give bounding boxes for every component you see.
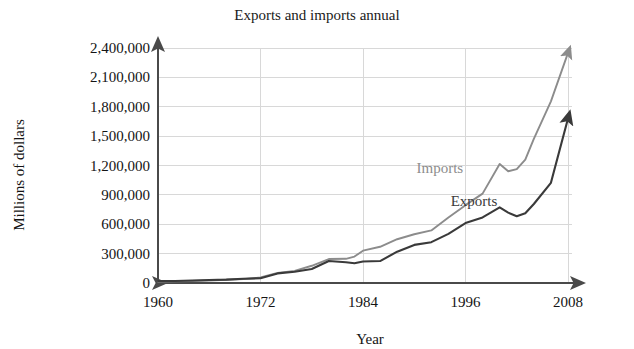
y-tick-label: 2,100,000 (90, 69, 150, 85)
x-tick-label: 1984 (348, 294, 379, 310)
y-tick-label: 300,000 (101, 246, 150, 262)
y-tick-label: 0 (143, 275, 151, 291)
series-annotation-labels: ImportsExports (417, 160, 498, 208)
series-label-exports: Exports (451, 193, 498, 209)
x-axis-tick-labels: 19601972198419962008 (143, 294, 583, 310)
y-tick-label: 1,200,000 (90, 158, 150, 174)
y-tick-label: 2,400,000 (90, 40, 150, 56)
y-axis-title: Millions of dollars (11, 119, 27, 231)
x-tick-label: 1972 (246, 294, 276, 310)
exports-imports-line-chart: Exports and imports annual Millions of d… (0, 0, 634, 349)
series-label-imports: Imports (417, 160, 464, 176)
y-tick-label: 900,000 (101, 187, 150, 203)
y-tick-label: 600,000 (101, 216, 150, 232)
chart-title: Exports and imports annual (234, 7, 399, 23)
x-tick-label: 1996 (451, 294, 482, 310)
x-axis-title: Year (356, 331, 384, 347)
y-axis-tick-labels: 0300,000600,000900,0001,200,0001,500,000… (90, 40, 150, 291)
x-tick-label: 2008 (553, 294, 583, 310)
y-tick-label: 1,800,000 (90, 99, 150, 115)
chart-container: Exports and imports annual Millions of d… (0, 0, 634, 349)
y-tick-label: 1,500,000 (90, 128, 150, 144)
horizontal-gridlines (158, 48, 572, 283)
x-tick-label: 1960 (143, 294, 173, 310)
